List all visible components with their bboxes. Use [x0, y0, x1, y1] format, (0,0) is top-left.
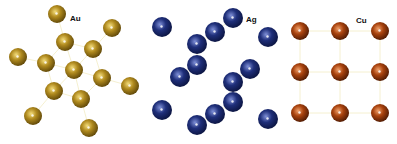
atom-highlight: [128, 84, 130, 86]
atom-highlight: [79, 97, 81, 99]
atom-highlight: [100, 76, 102, 78]
atom-highlight: [160, 25, 162, 27]
atom-highlight: [55, 12, 57, 14]
atom-highlight: [195, 42, 197, 44]
ag-label: Ag: [246, 15, 257, 24]
atom-highlight: [213, 112, 215, 114]
atom-highlight: [378, 29, 380, 31]
ag-structure: [152, 8, 278, 135]
au-label: Au: [70, 14, 81, 23]
atom-highlight: [266, 35, 268, 37]
atom-highlight: [178, 75, 180, 77]
atom-highlight: [378, 111, 380, 113]
atom-highlight: [160, 108, 162, 110]
atom-highlight: [87, 126, 89, 128]
atom-highlight: [231, 80, 233, 82]
cu-label: Cu: [356, 16, 367, 25]
atom-highlight: [213, 30, 215, 32]
atom-highlight: [338, 111, 340, 113]
atom-highlight: [298, 70, 300, 72]
atom-highlight: [16, 55, 18, 57]
atom-highlight: [266, 117, 268, 119]
atom-highlight: [31, 114, 33, 116]
atom-highlight: [195, 123, 197, 125]
atom-highlight: [231, 16, 233, 18]
au-structure: [9, 5, 139, 137]
atom-highlight: [72, 68, 74, 70]
atom-highlight: [63, 40, 65, 42]
atom-highlight: [110, 26, 112, 28]
atom-highlight: [298, 111, 300, 113]
atom-highlight: [44, 61, 46, 63]
atom-highlight: [338, 29, 340, 31]
cu-structure: [291, 22, 389, 122]
atom-highlight: [298, 29, 300, 31]
crystal-structures-diagram: Au Ag Cu: [0, 0, 397, 144]
atom-highlight: [52, 89, 54, 91]
atom-highlight: [231, 100, 233, 102]
atom-highlight: [338, 70, 340, 72]
atom-highlight: [248, 67, 250, 69]
atom-highlight: [195, 63, 197, 65]
atom-highlight: [91, 47, 93, 49]
atom-highlight: [378, 70, 380, 72]
